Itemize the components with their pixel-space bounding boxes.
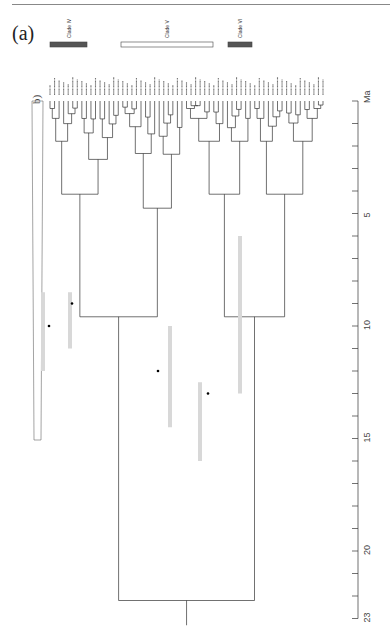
clade-bar <box>121 42 213 47</box>
axis-tick-label: 15 <box>362 432 372 442</box>
clade-bar <box>228 42 252 47</box>
hpd-bar <box>41 292 45 371</box>
node-dot <box>48 325 51 328</box>
clade-label: Clade V <box>164 20 170 38</box>
node-dot <box>71 302 74 305</box>
node-dot <box>157 370 160 373</box>
hpd-bar <box>238 236 242 394</box>
hpd-bar <box>168 326 172 427</box>
clade-label: Clade IV <box>66 18 72 38</box>
hpd-bar <box>68 292 72 348</box>
axis-tick-label: 23 <box>362 612 372 622</box>
axis-tick-label: 20 <box>362 545 372 555</box>
axis-tick-label: 10 <box>362 320 372 330</box>
node-dot <box>207 392 210 395</box>
clade-label: Clade VI <box>237 19 243 38</box>
clade-bar <box>50 42 87 47</box>
hpd-bar <box>198 382 202 461</box>
phylogenetic-tree-figure: Clade IVClade VClade VIb)510152023Ma <box>0 0 390 638</box>
axis-unit-label: Ma <box>362 90 372 103</box>
axis-tick-label: 5 <box>362 212 372 217</box>
collapsed-clade-box <box>32 101 43 440</box>
